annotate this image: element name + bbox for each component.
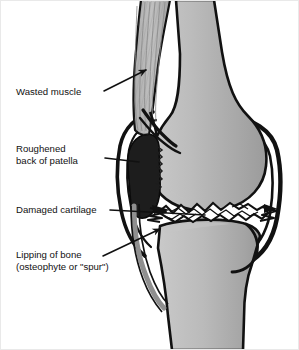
label-roughened-back-of-patella-line-0: Roughened: [16, 143, 66, 154]
label-damaged-cartilage: Damaged cartilage: [16, 204, 97, 215]
label-wasted-muscle-line-0: Wasted muscle: [16, 86, 81, 97]
label-lipping-of-bone-line-0: Lipping of bone: [16, 249, 82, 260]
label-damaged-cartilage-line-0: Damaged cartilage: [16, 204, 97, 215]
knee-osteoarthritis-diagram: Wasted muscle Roughened back of patella …: [0, 0, 299, 350]
label-lipping-of-bone-line-1: (osteophyte or "spur"): [16, 261, 109, 272]
diagram-canvas: Wasted muscle Roughened back of patella …: [0, 0, 299, 350]
label-wasted-muscle: Wasted muscle: [16, 86, 81, 97]
tibia: [158, 220, 260, 350]
label-roughened-back-of-patella-line-1: back of patella: [16, 155, 79, 166]
